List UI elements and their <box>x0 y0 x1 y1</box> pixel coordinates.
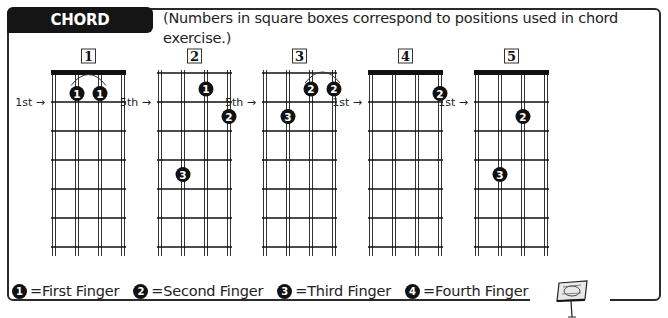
fret-label: 1st → <box>438 96 468 109</box>
legend-label: =First Finger <box>30 283 119 299</box>
finger-legend: 1 =First Finger 2 =Second Finger 3 =Thir… <box>12 283 528 299</box>
position-label: 4 <box>401 49 410 64</box>
position-label: 5 <box>507 49 516 64</box>
svg-text:3: 3 <box>496 169 503 181</box>
legend-item: 3 =Third Finger <box>277 283 391 299</box>
finger-4-icon: 4 <box>405 284 420 299</box>
position-label: 3 <box>295 49 304 64</box>
position-label: 2 <box>190 49 199 64</box>
svg-text:1: 1 <box>73 88 80 100</box>
legend-label: =Fourth Finger <box>423 283 528 299</box>
fret-label: 5th → <box>225 96 256 109</box>
fret-label: 1st → <box>332 96 362 109</box>
svg-text:2: 2 <box>330 83 337 95</box>
finger-2-icon: 2 <box>133 284 148 299</box>
svg-text:3: 3 <box>179 169 186 181</box>
legend-label: =Second Finger <box>151 283 263 299</box>
legend-item: 4 =Fourth Finger <box>405 283 528 299</box>
chord-diagram-4: 41st →2 <box>332 49 447 256</box>
legend-item: 2 =Second Finger <box>133 283 263 299</box>
legend-item: 1 =First Finger <box>12 283 119 299</box>
chord-diagram-1: 11st →11 <box>15 49 126 256</box>
svg-text:1: 1 <box>96 88 103 100</box>
svg-text:2: 2 <box>307 83 314 95</box>
finger-1-icon: 1 <box>12 284 27 299</box>
music-stand-icon <box>553 279 593 318</box>
finger-3-icon: 3 <box>277 284 292 299</box>
chord-diagrams: 11st →1125th →12335th →22341st →251st →2… <box>0 0 668 318</box>
svg-text:2: 2 <box>225 111 232 123</box>
svg-text:3: 3 <box>284 111 291 123</box>
fret-label: 1st → <box>15 96 45 109</box>
legend-label: =Third Finger <box>295 283 391 299</box>
position-label: 1 <box>84 49 93 64</box>
svg-text:1: 1 <box>202 83 209 95</box>
chord-diagram-2: 25th →123 <box>120 49 237 256</box>
fret-label: 5th → <box>120 96 151 109</box>
svg-text:2: 2 <box>519 111 526 123</box>
chord-diagram-3: 35th →223 <box>225 49 342 256</box>
chord-diagram-5: 51st →23 <box>438 49 549 256</box>
